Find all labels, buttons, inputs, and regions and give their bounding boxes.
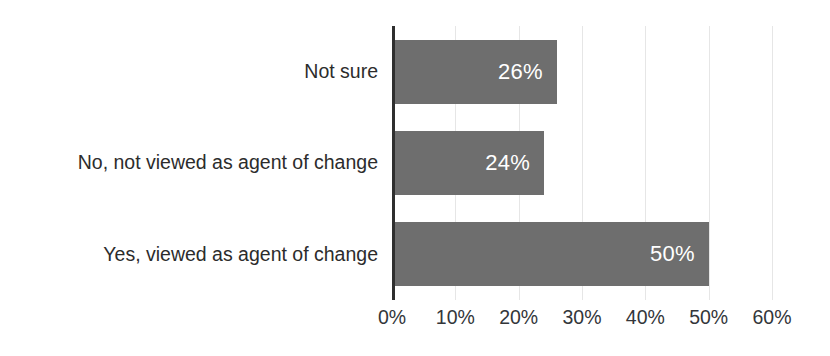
bar-chart: 50%24%26% Yes, viewed as agent of change… xyxy=(0,0,830,356)
x-tick-label: 20% xyxy=(499,308,538,328)
plot-area: 50%24%26% xyxy=(392,26,772,300)
x-axis-tick-labels: 0%10%20%30%40%50%60% xyxy=(392,308,772,338)
x-tick-label: 10% xyxy=(436,308,475,328)
category-label: Yes, viewed as agent of change xyxy=(0,222,378,286)
category-label: Not sure xyxy=(0,40,378,104)
x-tick-label: 60% xyxy=(752,308,791,328)
gridline-60 xyxy=(772,26,773,300)
bar-value-label: 26% xyxy=(498,61,543,83)
x-tick-label: 40% xyxy=(626,308,665,328)
bar-value-label: 50% xyxy=(650,243,695,265)
category-axis-labels: Yes, viewed as agent of changeNo, not vi… xyxy=(0,26,378,300)
category-label: No, not viewed as agent of change xyxy=(0,131,378,195)
bar-row: 24% xyxy=(392,131,772,195)
x-tick-label: 30% xyxy=(562,308,601,328)
bar: 26% xyxy=(392,40,557,104)
y-axis-line xyxy=(392,26,395,300)
bar: 50% xyxy=(392,222,709,286)
bar-row: 50% xyxy=(392,222,772,286)
bars-layer: 50%24%26% xyxy=(392,26,772,300)
bar-value-label: 24% xyxy=(485,152,530,174)
x-tick-label: 0% xyxy=(378,308,406,328)
bar-row: 26% xyxy=(392,40,772,104)
x-tick-label: 50% xyxy=(689,308,728,328)
bar: 24% xyxy=(392,131,544,195)
